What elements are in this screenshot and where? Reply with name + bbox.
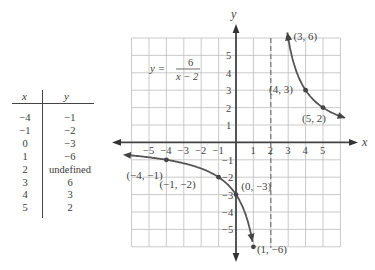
x-axis-label: x [361, 135, 368, 149]
data-point [251, 244, 256, 249]
data-point [303, 88, 308, 93]
x-tick-label: 4 [303, 145, 309, 156]
data-point [234, 192, 239, 197]
graph: x y −5−4−3−2−11234554321−1−2−3−4−5 y = 6… [0, 0, 375, 270]
y-tick-label: 5 [226, 50, 231, 61]
y-tick-label: 4 [226, 68, 232, 79]
y-tick-label: 3 [226, 85, 231, 96]
y-tick-label: −5 [222, 224, 233, 235]
x-tick-label: −4 [160, 145, 172, 156]
left-branch-curve [126, 155, 252, 242]
data-point [321, 105, 326, 110]
data-point [216, 175, 221, 180]
point-label: (4, 3) [269, 83, 293, 96]
x-tick-label: −5 [143, 145, 154, 156]
point-label: (−1, −2) [159, 178, 196, 191]
point-label: (1, −6) [257, 243, 287, 256]
data-point [286, 36, 291, 41]
point-label: (−4, −1) [126, 169, 163, 182]
x-tick-label: 1 [250, 145, 255, 156]
svg-text:y =: y = [149, 62, 165, 74]
y-tick-label: 2 [226, 103, 231, 114]
x-tick-label: −2 [195, 145, 206, 156]
y-tick-label: −4 [222, 207, 234, 218]
point-label: (5, 2) [302, 112, 326, 125]
y-tick-label: −1 [222, 155, 233, 166]
x-tick-label: −3 [178, 145, 189, 156]
data-point [164, 157, 169, 162]
equation-label: y = 6 x − 2 [149, 57, 200, 82]
x-tick-label: 2 [268, 145, 273, 156]
point-label: (3, 6) [293, 30, 317, 43]
x-tick-label: 3 [285, 145, 290, 156]
right-branch-curve [287, 33, 344, 118]
point-label: (0, −3) [241, 180, 271, 193]
y-tick-label: 1 [226, 120, 231, 131]
y-axis-label: y [230, 7, 237, 21]
svg-text:x − 2: x − 2 [175, 71, 199, 82]
y-tick-label: −3 [222, 190, 233, 201]
x-tick-label: 5 [320, 145, 325, 156]
svg-text:6: 6 [188, 57, 193, 68]
